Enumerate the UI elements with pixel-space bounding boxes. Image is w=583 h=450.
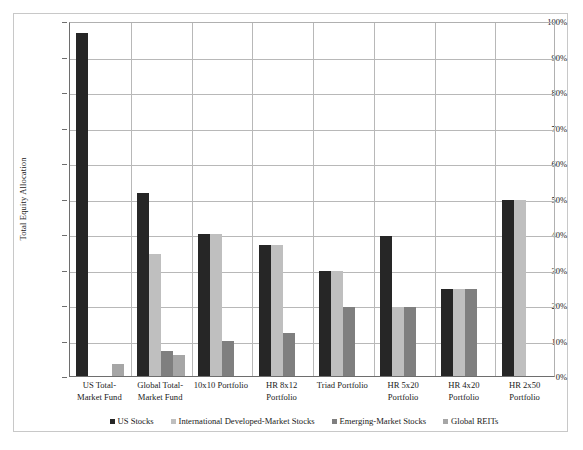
bar-slot: [319, 23, 331, 376]
legend-item[interactable]: Global REITs: [443, 416, 498, 426]
bar-slot: [210, 23, 222, 376]
bar-slot: [234, 23, 246, 376]
x-axis-category-label: Triad Portfolio: [312, 380, 373, 392]
y-axis-title: Total Equity Allocation: [16, 14, 30, 384]
y-axis-tick-mark: [62, 306, 67, 307]
bar[interactable]: [465, 289, 477, 376]
y-axis-tick-mark: [62, 271, 67, 272]
bar-slot: [137, 23, 149, 376]
bar[interactable]: [137, 193, 149, 376]
bar-slot: [76, 23, 88, 376]
bar-slot: [355, 23, 367, 376]
bar-slot: [453, 23, 465, 376]
x-axis-category-label: 10x10 Portfolio: [191, 380, 252, 392]
bar-slot: [380, 23, 392, 376]
bar[interactable]: [149, 254, 161, 376]
legend-item[interactable]: International Developed-Market Stocks: [171, 416, 315, 426]
bar-slot: [343, 23, 355, 376]
bar-slot: [88, 23, 100, 376]
bar[interactable]: [259, 245, 271, 376]
bar-slot: [514, 23, 526, 376]
bar-slot: [259, 23, 271, 376]
bar-slot: [465, 23, 477, 376]
legend-swatch-icon: [443, 419, 448, 424]
bar[interactable]: [319, 271, 331, 376]
y-axis-tick-mark: [62, 377, 67, 378]
legend-label: US Stocks: [118, 416, 154, 426]
bar-slot: [295, 23, 307, 376]
bar-slot: [271, 23, 283, 376]
bar[interactable]: [210, 234, 222, 376]
bar-slot: [526, 23, 538, 376]
bar-slot: [477, 23, 489, 376]
y-axis-tick-mark: [62, 22, 67, 23]
bar-slot: [538, 23, 550, 376]
legend-item[interactable]: Emerging-Market Stocks: [332, 416, 426, 426]
x-axis-category-labels: US Total-Market FundGlobal Total-Market …: [69, 380, 555, 414]
legend-label: Emerging-Market Stocks: [340, 416, 426, 426]
y-axis-tick-mark: [62, 342, 67, 343]
bar[interactable]: [404, 307, 416, 376]
bar-group: [131, 23, 192, 376]
bar[interactable]: [76, 33, 88, 376]
x-axis-category-label: US Total-Market Fund: [69, 380, 130, 403]
y-axis-tick-mark: [62, 129, 67, 130]
bar[interactable]: [514, 200, 526, 376]
bar[interactable]: [502, 200, 514, 376]
bar[interactable]: [441, 289, 453, 376]
x-axis-category-label: HR 2x50Portfolio: [494, 380, 555, 403]
bar-slot: [283, 23, 295, 376]
legend-swatch-icon: [171, 419, 176, 424]
bar[interactable]: [161, 351, 173, 376]
bar[interactable]: [343, 307, 355, 376]
legend-label: International Developed-Market Stocks: [179, 416, 315, 426]
chart-legend: US StocksInternational Developed-Market …: [54, 413, 554, 429]
legend-swatch-icon: [110, 419, 115, 424]
bar-slot: [149, 23, 161, 376]
bar-slot: [416, 23, 428, 376]
bar-slot: [502, 23, 514, 376]
bar[interactable]: [222, 341, 234, 376]
chart-figure: Total Equity Allocation 0%10%20%30%40%50…: [13, 13, 568, 432]
bar-group: [313, 23, 374, 376]
bar-slot: [161, 23, 173, 376]
x-axis-category-label: Global Total-Market Fund: [130, 380, 191, 403]
bar-slot: [331, 23, 343, 376]
x-axis-category-label: HR 5x20Portfolio: [373, 380, 434, 403]
x-axis-category-label: HR 8x12Portfolio: [251, 380, 312, 403]
y-axis-title-text: Total Equity Allocation: [18, 157, 28, 240]
bar-group: [192, 23, 253, 376]
y-axis-tick-mark: [62, 58, 67, 59]
legend-swatch-icon: [332, 419, 337, 424]
bar[interactable]: [271, 245, 283, 376]
bar-slot: [441, 23, 453, 376]
bar-slot: [112, 23, 124, 376]
bar-slot: [404, 23, 416, 376]
legend-item[interactable]: US Stocks: [110, 416, 154, 426]
bar-slot: [173, 23, 185, 376]
x-axis-category-label: HR 4x20Portfolio: [434, 380, 495, 403]
legend-label: Global REITs: [451, 416, 498, 426]
bar-slot: [198, 23, 210, 376]
bar-group: [70, 23, 131, 376]
bar-group: [435, 23, 496, 376]
bar[interactable]: [453, 289, 465, 376]
bar-group: [374, 23, 435, 376]
bar[interactable]: [173, 355, 185, 376]
plot-area: [69, 22, 555, 377]
bar[interactable]: [380, 236, 392, 376]
y-axis-tick-mark: [62, 164, 67, 165]
bar-slot: [100, 23, 112, 376]
y-axis-tick-mark: [62, 200, 67, 201]
bar[interactable]: [331, 271, 343, 376]
bar[interactable]: [198, 234, 210, 376]
bar-group: [495, 23, 556, 376]
bar[interactable]: [112, 364, 124, 376]
bar-slot: [222, 23, 234, 376]
bar-slot: [392, 23, 404, 376]
y-axis-tick-mark: [62, 93, 67, 94]
bar-group: [252, 23, 313, 376]
bar[interactable]: [392, 307, 404, 376]
bar[interactable]: [283, 333, 295, 376]
y-axis-tick-mark: [62, 235, 67, 236]
